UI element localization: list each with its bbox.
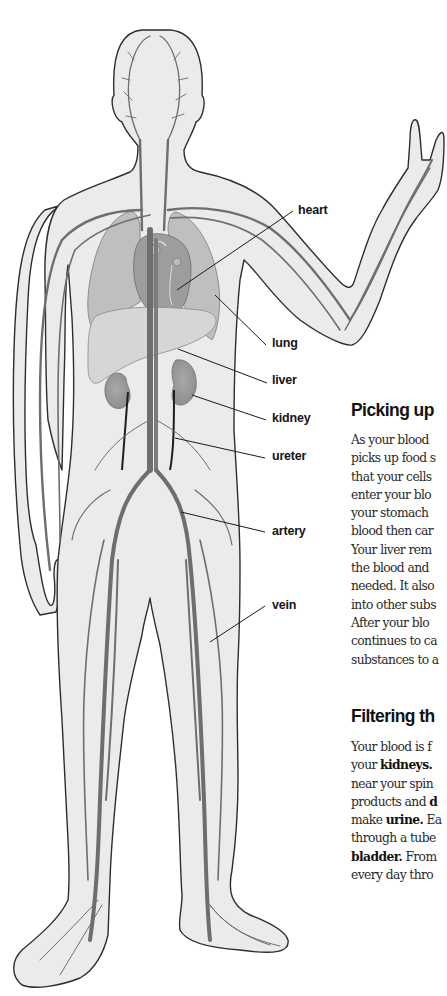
label-heart: heart [298, 203, 328, 217]
text-line: Your blood is f [351, 738, 447, 756]
text-line: As your blood [351, 431, 447, 449]
term-bladder: bladder. [351, 849, 402, 864]
section-body-picking-up: As your blood picks up food s that your … [351, 431, 447, 669]
text-line: your kidneys. [351, 756, 447, 774]
term-urine: urine. [386, 812, 424, 827]
term-kidneys: kidneys. [380, 757, 432, 772]
text-line: near your spin [351, 775, 447, 793]
text-line: into other subs [351, 596, 447, 614]
text-line: continues to ca [351, 632, 447, 650]
text-line: every day thro [351, 866, 447, 884]
text-line: enter your blo [351, 486, 447, 504]
text-line: your stomach [351, 504, 447, 522]
text-line: needed. It also [351, 577, 447, 595]
label-vein: vein [272, 598, 296, 612]
text-line: substances to a [351, 651, 447, 669]
text-line: products and d [351, 793, 447, 811]
label-kidney: kidney [272, 411, 310, 425]
text-line: the blood and [351, 559, 447, 577]
text-line: picks up food s [351, 449, 447, 467]
text-line: blood then car [351, 522, 447, 540]
text-line: After your blo [351, 614, 447, 632]
text-line: make urine. Ea [351, 811, 447, 829]
label-lung: lung [272, 336, 298, 350]
label-artery: artery [272, 524, 306, 538]
section-heading-filtering: Filtering th [351, 705, 435, 727]
text-line: Your liver rem [351, 541, 447, 559]
section-body-filtering: Your blood is f your kidneys. near your … [351, 738, 447, 884]
section-heading-picking-up: Picking up [351, 399, 434, 421]
label-liver: liver [272, 373, 297, 387]
text-line: that your cells [351, 468, 447, 486]
label-ureter: ureter [272, 449, 306, 463]
text-line: through a tube [351, 829, 447, 847]
text-line: bladder. From [351, 848, 447, 866]
